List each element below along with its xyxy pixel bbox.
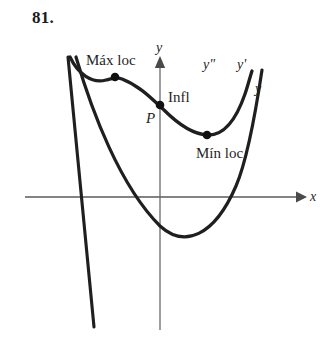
x-axis (25, 192, 307, 203)
y-axis-arrowhead (155, 56, 165, 68)
label-local-max: Máx loc (86, 53, 136, 68)
x-axis-label: x (310, 190, 316, 204)
figure-page: 81. x y y" y' y Máx loc Infl P Mín loc (0, 0, 327, 338)
label-point-p: P (146, 111, 155, 126)
curve-label-y-prime: y' (237, 58, 246, 72)
label-local-min: Mín loc (196, 146, 243, 161)
y-axis-label: y (156, 41, 162, 55)
curve-label-y: y (255, 82, 261, 96)
calculus-graph-figure (0, 0, 327, 338)
y-axis (155, 56, 165, 330)
curve-label-y-double-prime: y" (203, 58, 215, 72)
label-inflection: Infl (168, 90, 190, 105)
marker-local-max (111, 73, 120, 82)
marker-inflection-point-p (156, 101, 165, 110)
x-axis-arrowhead (296, 192, 307, 203)
marker-local-min (203, 131, 212, 140)
